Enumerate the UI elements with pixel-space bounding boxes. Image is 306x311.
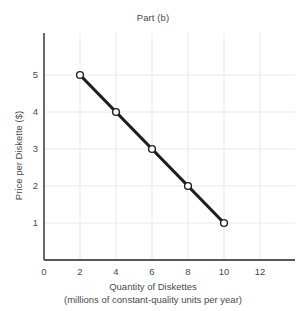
x-tick-label: 8 [178, 266, 198, 277]
x-axis-label-sub: (millions of constant-quality units per … [0, 294, 306, 307]
y-tick-label: 4 [22, 106, 38, 117]
y-tick-label: 3 [22, 143, 38, 154]
gridlines [44, 33, 295, 260]
x-tick-label: 0 [34, 266, 54, 277]
y-tick-label: 1 [22, 217, 38, 228]
y-tick-label: 2 [22, 180, 38, 191]
x-tick-label: 12 [250, 266, 270, 277]
x-axis-label-main: Quantity of Diskettes [0, 281, 306, 294]
x-tick-label: 6 [142, 266, 162, 277]
x-tick-label: 10 [214, 266, 234, 277]
x-tick-label: 2 [70, 266, 90, 277]
plot-area [0, 0, 306, 311]
axis-spines [44, 33, 295, 260]
y-tick-label: 5 [22, 69, 38, 80]
chart-figure: Part (b) Price per Diskette ($) 12345 02… [0, 0, 306, 311]
x-tick-label: 4 [106, 266, 126, 277]
x-axis-label: Quantity of Diskettes (millions of const… [0, 281, 306, 306]
